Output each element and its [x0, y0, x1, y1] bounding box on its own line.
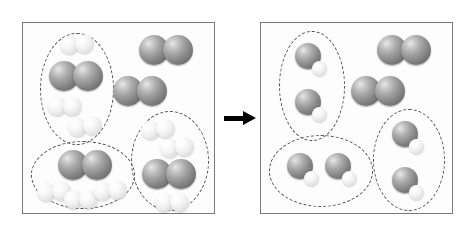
- light-atom: [304, 171, 319, 186]
- reactant-group-top-left-light-diatomic-4: [67, 115, 103, 137]
- reactant-group-top-left-light-diatomic-1: [59, 34, 94, 55]
- reactant-group-bottom-right-light-diatomic-4: [155, 193, 189, 212]
- before-panel: [22, 22, 215, 214]
- product-group-bottom-left-product-molecule-2: [325, 153, 359, 187]
- product-group-top-left-product-molecule-1: [295, 43, 329, 77]
- light-atom: [63, 97, 82, 116]
- product-group-bottom-right-product-molecule-1: [392, 121, 426, 155]
- reactant-group-bottom-left-light-diatomic-4: [92, 180, 128, 202]
- reactant-group-top-left-light-diatomic-3: [48, 97, 82, 116]
- dark-atom: [73, 61, 103, 91]
- leftover-dark-diatomic-2: [351, 76, 405, 106]
- light-atom: [170, 193, 189, 212]
- reactant-group-bottom-right-light-diatomic-1: [140, 118, 176, 140]
- arrow-head: [243, 111, 256, 125]
- reactant-group-bottom-right-dark-diatomic-3: [142, 159, 196, 189]
- dark-atom: [137, 76, 167, 106]
- light-atom: [409, 139, 424, 154]
- light-atom: [409, 185, 424, 200]
- light-atom: [342, 171, 357, 186]
- product-group-bottom-left-product-molecule-1: [287, 153, 321, 187]
- reaction-figure: Particle-level before-and-after diagram …: [0, 0, 476, 236]
- excess-dark-diatomic-2: [113, 76, 167, 106]
- excess-dark-diatomic-1: [139, 35, 193, 65]
- dark-atom: [375, 76, 405, 106]
- reactant-group-bottom-right-light-diatomic-2: [159, 136, 195, 158]
- reactant-group-top-left-dark-diatomic-2: [49, 61, 103, 91]
- light-atom: [74, 34, 94, 54]
- leftover-dark-diatomic-1: [377, 35, 431, 65]
- product-group-bottom-right-product-molecule-2: [392, 167, 426, 201]
- dark-atom: [82, 150, 112, 180]
- reactant-group-bottom-left-dark-diatomic-1: [58, 150, 112, 180]
- product-group-top-left-product-molecule-2: [295, 89, 329, 123]
- reaction-arrow-icon: [224, 111, 256, 125]
- light-atom: [107, 180, 128, 201]
- dark-atom: [401, 35, 431, 65]
- dark-atom: [163, 35, 193, 65]
- after-panel: [260, 22, 453, 214]
- light-atom: [312, 107, 327, 122]
- dark-atom: [166, 159, 196, 189]
- light-atom: [312, 61, 327, 76]
